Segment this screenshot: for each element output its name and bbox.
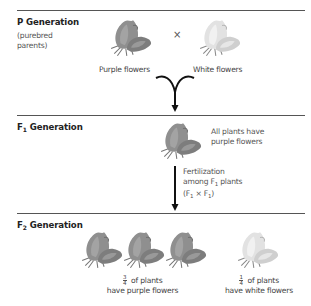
fert-line-3-mid: × F xyxy=(193,189,208,198)
f2-label-suffix: Generation xyxy=(27,220,83,230)
white-parent-caption: White flowers xyxy=(193,65,242,74)
f2-white-flower-icon xyxy=(235,228,281,270)
purple-flower-icon xyxy=(108,16,154,58)
fert-line-1: Fertilization xyxy=(183,167,242,177)
white-ratio-line-1: 14 of plants xyxy=(213,275,305,286)
fert-line-3: (F1 × F1) xyxy=(183,189,242,201)
f2-rule xyxy=(17,213,305,214)
fertilization-note: Fertilization among F1 plants (F1 × F1) xyxy=(183,167,242,201)
white-flower-icon xyxy=(197,16,243,58)
purple-ratio-caption: 34 of plants have purple flowers xyxy=(95,275,190,296)
f1-generation-label: F1 Generation xyxy=(17,122,83,133)
purple-caption-line-1: of plants xyxy=(129,276,162,285)
cross-connector-arrow xyxy=(150,70,200,115)
white-caption-line-1: of plants xyxy=(245,276,278,285)
purple-caption-line-2: have purple flowers xyxy=(95,286,190,296)
white-ratio-caption: 14 of plants have white flowers xyxy=(213,275,305,296)
result-line-2: purple flowers xyxy=(211,137,264,147)
fert-line-2-pre: among F xyxy=(183,177,215,186)
purebred-parents-note: (purebred parents) xyxy=(17,31,53,50)
f2-generation-label: F2 Generation xyxy=(17,220,83,231)
note-line-2: parents) xyxy=(17,41,53,51)
purple-parent-caption: Purple flowers xyxy=(99,65,150,74)
f1-label-suffix: Generation xyxy=(27,122,83,132)
p-label-suffix: Generation xyxy=(23,17,79,27)
white-caption-line-2: have white flowers xyxy=(213,286,305,296)
f1-rule xyxy=(17,115,305,116)
f1-purple-flower-icon xyxy=(158,119,204,161)
f2-purple-flower-icon-3 xyxy=(163,228,209,270)
note-line-1: (purebred xyxy=(17,31,53,41)
result-line-1: All plants have xyxy=(211,127,264,137)
fert-line-3-open: (F xyxy=(183,189,190,198)
one-quarter-fraction: 14 xyxy=(239,275,243,286)
fert-line-3-close: ) xyxy=(211,189,214,198)
top-rule xyxy=(17,10,305,11)
three-quarters-fraction: 34 xyxy=(123,275,127,286)
p-generation-label: P Generation xyxy=(17,17,79,27)
fert-line-2: among F1 plants xyxy=(183,177,242,189)
self-fertilization-arrow xyxy=(170,166,180,213)
f1-result-text: All plants have purple flowers xyxy=(211,127,264,146)
purple-ratio-line-1: 34 of plants xyxy=(95,275,190,286)
cross-symbol: × xyxy=(173,29,181,40)
f2-purple-flower-icon-1 xyxy=(79,228,125,270)
fert-line-2-post: plants xyxy=(218,177,242,186)
f2-purple-flower-icon-2 xyxy=(121,228,167,270)
